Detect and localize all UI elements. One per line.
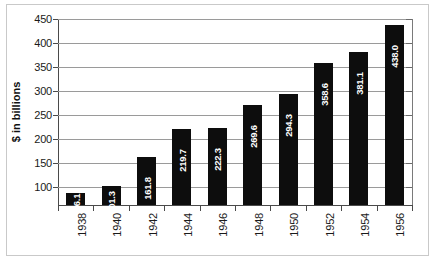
y-axis-tick: [53, 43, 58, 44]
x-axis-tick-label: 1942: [147, 213, 159, 237]
bar[interactable]: 219.7: [172, 129, 191, 205]
y-axis-tick: [53, 91, 58, 92]
y-axis-tick: [53, 67, 58, 68]
bar[interactable]: 86.1: [66, 193, 85, 205]
x-axis-tick-label: 1952: [324, 213, 336, 237]
x-axis-label: 1938: [76, 213, 100, 225]
y-axis-title-label: $ in billions: [10, 82, 22, 143]
gridline: [58, 19, 412, 20]
y-axis-title: $ in billions: [8, 19, 24, 205]
x-axis-tick: [306, 205, 307, 211]
x-axis-label: 1952: [324, 213, 348, 225]
y-axis-tick-label: 450: [34, 13, 52, 25]
bar[interactable]: 381.1: [349, 52, 368, 205]
bar-value-label: 294.3: [283, 114, 294, 136]
x-axis-tick: [58, 205, 59, 211]
x-axis-tick-label: 1956: [394, 213, 406, 237]
gridline: [58, 43, 412, 44]
bar-value-label: 222.3: [212, 149, 223, 171]
y-axis-tick-right: [406, 187, 412, 188]
x-axis-label: 1954: [359, 213, 383, 225]
bar[interactable]: 269.6: [243, 105, 262, 205]
bar[interactable]: 294.3: [279, 94, 298, 205]
y-axis-tick-label: 200: [34, 133, 52, 145]
x-axis-tick: [270, 205, 271, 211]
x-axis-tick-label: 1950: [288, 213, 300, 237]
y-axis-right-line: [412, 19, 413, 205]
y-axis-tick-label: 300: [34, 85, 52, 97]
bar-value-label: 438.0: [389, 45, 400, 67]
bar-chart-figure: $ in billions 450400350300250200150100 8…: [0, 0, 435, 261]
x-axis-tick: [129, 205, 130, 211]
x-axis-label: 1940: [111, 213, 135, 225]
x-axis-label: 1956: [394, 213, 418, 225]
x-axis-label: 1948: [253, 213, 277, 225]
bar-value-label: 358.6: [318, 83, 329, 105]
x-axis-label: 1950: [288, 213, 312, 225]
y-axis-tick: [53, 163, 58, 164]
x-axis-tick: [235, 205, 236, 211]
bar-value-label: 86.1: [70, 194, 81, 211]
y-axis-tick: [53, 187, 58, 188]
bar[interactable]: 358.6: [314, 63, 333, 205]
bar-value-label: 161.8: [141, 178, 152, 200]
x-axis-tick-label: 1938: [76, 213, 88, 237]
y-axis-tick-label: 150: [34, 157, 52, 169]
y-axis-line: [58, 19, 59, 205]
y-axis-tick: [53, 115, 58, 116]
x-axis-label: 1944: [182, 213, 206, 225]
x-axis-tick-label: 1948: [253, 213, 265, 237]
x-axis-tick: [164, 205, 165, 211]
y-axis-tick-label: 400: [34, 37, 52, 49]
y-axis-tick-right: [406, 19, 412, 20]
bar-value-label: 219.7: [176, 150, 187, 172]
bar-value-label: 381.1: [353, 72, 364, 94]
bar-value-label: 101.3: [106, 191, 117, 213]
y-axis-tick-label: 350: [34, 61, 52, 73]
y-axis-tick-right: [406, 163, 412, 164]
x-axis-tick-label: 1944: [182, 213, 194, 237]
y-axis-tick-right: [406, 67, 412, 68]
y-axis-tick-label: 100: [34, 181, 52, 193]
bar[interactable]: 438.0: [385, 25, 404, 205]
x-axis-tick: [93, 205, 94, 211]
plot-area: 450400350300250200150100 86.1101.3161.82…: [58, 19, 412, 205]
x-axis-label: 1942: [147, 213, 171, 225]
y-axis-tick-right: [406, 43, 412, 44]
x-axis-tick-label: 1940: [111, 213, 123, 237]
x-axis-tick-label: 1954: [359, 213, 371, 237]
bar[interactable]: 101.3: [102, 186, 121, 205]
y-axis-tick-label: 250: [34, 109, 52, 121]
y-axis-tick-right: [406, 91, 412, 92]
x-axis-tick: [412, 205, 413, 211]
x-axis-tick: [200, 205, 201, 211]
bar-value-label: 269.6: [247, 126, 258, 148]
x-axis-tick: [341, 205, 342, 211]
x-axis-tick: [377, 205, 378, 211]
bar[interactable]: 222.3: [208, 128, 227, 205]
y-axis-tick: [53, 139, 58, 140]
x-axis-label: 1946: [217, 213, 241, 225]
bar[interactable]: 161.8: [137, 157, 156, 205]
y-axis-tick-right: [406, 115, 412, 116]
y-axis-tick: [53, 19, 58, 20]
y-axis-tick-right: [406, 139, 412, 140]
x-axis-tick-label: 1946: [217, 213, 229, 237]
